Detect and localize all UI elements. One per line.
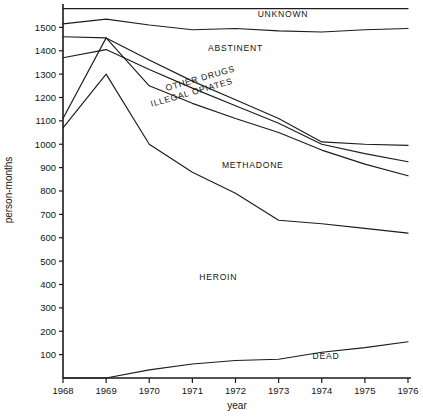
chart-container: 1002003004005006007008009001000110012001… — [0, 0, 423, 418]
x-tick-label: 1973 — [268, 385, 289, 396]
y-tick-label: 1000 — [35, 139, 56, 150]
y-tick-label: 1400 — [35, 45, 56, 56]
band-labels: UNKNOWNABSTINENTOTHER DRUGSILLEGAL OPIAT… — [149, 9, 339, 361]
band-label-unknown: UNKNOWN — [258, 9, 309, 19]
y-axis-title: person-months — [3, 157, 14, 224]
series-curves — [63, 9, 408, 378]
axes — [63, 4, 411, 378]
series-curve-unknown-lower — [63, 19, 408, 32]
y-tick-label: 600 — [40, 232, 56, 243]
y-tick-label: 700 — [40, 209, 56, 220]
band-label-dead: DEAD — [313, 351, 340, 361]
y-axis-ticks: 1002003004005006007008009001000110012001… — [35, 22, 63, 360]
y-tick-label: 800 — [40, 185, 56, 196]
y-tick-label: 500 — [40, 256, 56, 267]
x-tick-label: 1970 — [139, 385, 160, 396]
x-tick-label: 1975 — [354, 385, 375, 396]
y-tick-label: 400 — [40, 279, 56, 290]
y-tick-label: 1100 — [36, 115, 56, 126]
x-tick-label: 1974 — [311, 385, 332, 396]
series-curve-heroin-lower — [63, 342, 408, 378]
x-tick-label: 1972 — [225, 385, 246, 396]
y-tick-label: 200 — [40, 326, 56, 337]
series-curve-other-drugs-lower — [63, 50, 408, 162]
y-tick-label: 1500 — [35, 22, 56, 33]
band-label-methadone: METHADONE — [222, 160, 284, 170]
y-tick-label: 300 — [40, 302, 56, 313]
person-months-by-year-chart: 1002003004005006007008009001000110012001… — [0, 0, 423, 418]
x-axis-title: year — [227, 400, 247, 411]
band-label-heroin: HEROIN — [199, 272, 237, 282]
x-tick-label: 1968 — [52, 385, 73, 396]
x-tick-label: 1969 — [96, 385, 117, 396]
y-tick-label: 1200 — [35, 92, 56, 103]
x-axis-ticks: 196819691970197119721973197419751976 — [52, 378, 418, 396]
x-tick-label: 1976 — [397, 385, 418, 396]
x-tick-label: 1971 — [182, 385, 203, 396]
y-tick-label: 900 — [40, 162, 56, 173]
series-curve-methadone-lower — [63, 74, 408, 233]
y-tick-label: 1300 — [35, 69, 56, 80]
y-tick-label: 100 — [40, 349, 56, 360]
band-label-abstinent: ABSTINENT — [208, 43, 263, 53]
series-curve-illegal-opiates-lower — [63, 38, 408, 176]
